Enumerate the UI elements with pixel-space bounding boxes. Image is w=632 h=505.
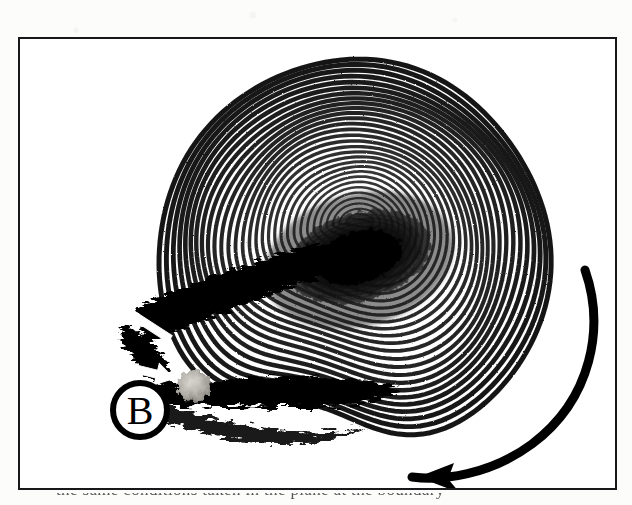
figure-page: B the same conditions taken in the plane… xyxy=(0,0,632,505)
flow-visualization-image: B xyxy=(20,39,615,488)
label-B-letter: B xyxy=(127,388,154,433)
figure-frame: B xyxy=(18,37,617,490)
label-B: B xyxy=(113,383,167,437)
cropped-caption-text: the same conditions taken in the plane a… xyxy=(56,493,445,500)
cropped-caption: the same conditions taken in the plane a… xyxy=(18,493,617,505)
light-gray-blob xyxy=(177,370,211,402)
